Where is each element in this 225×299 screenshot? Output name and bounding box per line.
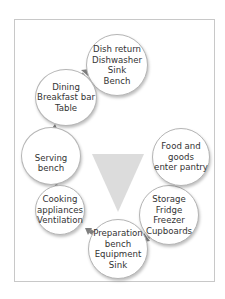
node-label: Dish return <box>93 44 141 55</box>
node-label: Preparation <box>93 228 143 239</box>
center-triangle <box>92 154 144 212</box>
node-label: goods <box>168 152 194 163</box>
node-label: Dishwasher <box>92 55 142 66</box>
node-label: appliances <box>37 205 83 216</box>
node-label: bench <box>38 163 64 174</box>
node-label: Dining <box>52 82 80 93</box>
node-label: Sink <box>109 260 127 271</box>
node-cooking: Cooking appliances Ventilation <box>35 185 85 235</box>
node-label: Cooking <box>43 194 78 205</box>
node-label: Table <box>55 103 77 114</box>
node-storage: Storage Fridge Freezer Cupboards <box>139 185 199 245</box>
node-serving: Serving bench <box>21 127 81 185</box>
node-label: Breakfast bar <box>37 92 95 103</box>
node-dish-return: Dish return Dishwasher Sink Bench <box>86 34 148 96</box>
node-label: Ventilation <box>37 215 83 226</box>
node-label: bench <box>105 239 131 250</box>
node-label: Freezer <box>153 215 185 226</box>
node-label: enter pantry <box>154 162 208 173</box>
node-label: Serving <box>35 153 68 164</box>
node-label: Bench <box>104 76 131 87</box>
node-preparation: Preparation bench Equipment Sink <box>88 219 148 279</box>
node-food-goods: Food and goods enter pantry <box>152 128 210 186</box>
node-label: Equipment <box>95 249 142 260</box>
node-label: Sink <box>108 65 126 76</box>
node-label: Food and <box>161 141 201 152</box>
node-label: Cupboards <box>146 226 192 237</box>
node-label: Storage <box>152 194 186 205</box>
node-dining: Dining Breakfast bar Table <box>35 69 97 126</box>
node-label: Fridge <box>156 205 182 216</box>
